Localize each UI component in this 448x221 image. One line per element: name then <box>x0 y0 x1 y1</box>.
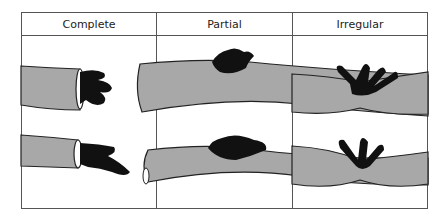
illustrations <box>0 0 448 221</box>
irregular-bottom-illustration <box>292 138 428 186</box>
complete-top-illustration <box>21 66 112 110</box>
complete-bottom-illustration <box>21 135 130 175</box>
